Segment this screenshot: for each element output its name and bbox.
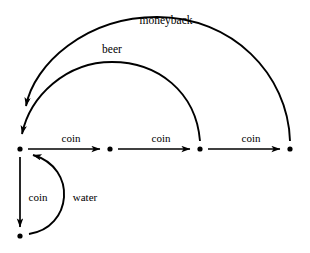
node-5-bottom (17, 233, 22, 238)
edge-label-beer: beer (102, 44, 122, 56)
edge-label-coin-1: coin (62, 133, 81, 144)
node-3 (197, 146, 202, 151)
edge-label-water: water (73, 192, 97, 203)
edge-beer-n3-n1 (22, 62, 200, 141)
node-1-start (17, 146, 22, 151)
diagram-canvas: coin coin coin coin water beer moneyback (0, 0, 310, 253)
graph-svg (0, 0, 310, 253)
node-4 (287, 146, 292, 151)
edge-label-coin-vertical: coin (29, 192, 48, 203)
edge-label-coin-3: coin (242, 133, 261, 144)
node-2 (107, 146, 112, 151)
edge-moneyback-n4-n1 (26, 17, 290, 141)
edge-label-moneyback: moneyback (139, 15, 192, 27)
edge-label-coin-2: coin (152, 133, 171, 144)
